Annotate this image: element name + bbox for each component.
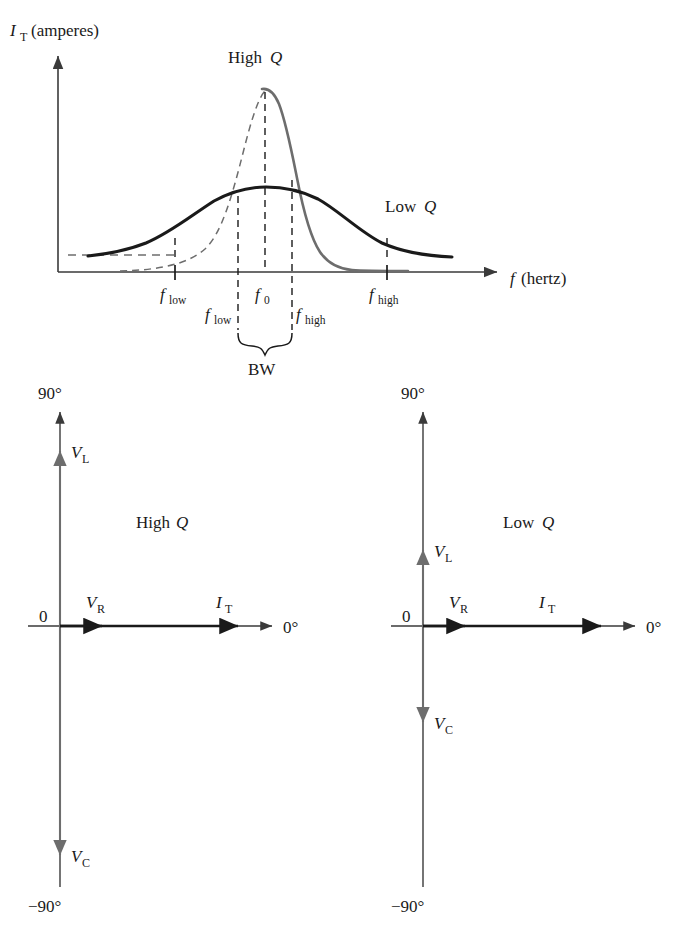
tick-label-f-zero-symbol: f [255, 285, 262, 304]
bandwidth-label: BW [248, 360, 276, 379]
low-q-phasor-caption-q: Q [542, 513, 554, 532]
high-q-vector-it-label: I T [215, 593, 233, 616]
high-q-annotation-text: High [228, 48, 263, 67]
high-q-phasor-caption-q: Q [176, 513, 188, 532]
low-q-axis-label-bottom: −90° [391, 897, 424, 916]
high-q-curve-annotation: High Q [228, 48, 282, 67]
low-q-annotation-text: Low [385, 197, 417, 216]
high-q-vector-vc-subscript: C [82, 856, 90, 870]
low-q-axis-label-right: 0° [646, 618, 661, 637]
low-q-phasor-caption-text: Low [503, 513, 535, 532]
low-q-vector-vr-subscript: R [460, 602, 468, 616]
tick-label-f-high-inner-subscript: high [305, 314, 326, 327]
y-axis-label-unit: (amperes) [31, 21, 99, 40]
high-q-vector-vr-label: V R [86, 593, 105, 616]
tick-label-f-low-outer: f low [160, 285, 187, 306]
high-q-vector-vc-label: V C [71, 847, 90, 870]
high-q-vector-vr-subscript: R [97, 602, 105, 616]
tick-label-f-zero: f 0 [255, 285, 270, 306]
high-q-axis-label-top: 90° [38, 384, 62, 403]
high-q-annotation-q: Q [270, 48, 282, 67]
phasor-diagram-low-q: 90° −90° 0° 0 Low Q V L V C V R I [391, 384, 661, 916]
high-q-vector-it-subscript: T [225, 602, 233, 616]
figure-svg: I T (amperes) f (hertz) High Q Low Q [0, 0, 676, 932]
y-axis-label-symbol: I [9, 21, 17, 40]
tick-label-f-high-outer: f high [369, 285, 399, 307]
tick-label-f-low-inner-symbol: f [205, 305, 212, 324]
low-q-vector-vc-subscript: C [445, 723, 453, 737]
resonance-chart: I T (amperes) f (hertz) High Q Low Q [9, 21, 566, 379]
low-q-axis-label-top: 90° [401, 384, 425, 403]
x-axis-label-unit: (hertz) [521, 269, 566, 288]
tick-label-f-high-inner-symbol: f [296, 305, 303, 324]
high-q-phasor-caption-text: High [136, 513, 171, 532]
tick-label-f-low-inner-subscript: low [214, 314, 232, 326]
bandwidth-brace [238, 333, 292, 355]
low-q-annotation-q: Q [424, 197, 436, 216]
low-q-vector-vl-subscript: L [445, 551, 452, 565]
tick-label-f-high-outer-subscript: high [378, 294, 399, 307]
tick-label-f-high-inner: f high [296, 305, 326, 327]
low-q-curve-annotation: Low Q [385, 197, 436, 216]
high-q-phasor-caption: High Q [136, 513, 188, 532]
low-q-vector-vc-label: V C [434, 714, 453, 737]
low-q-vector-vl-label: V L [434, 542, 452, 565]
x-axis-label: f (hertz) [510, 269, 566, 288]
y-axis-label: I T (amperes) [9, 21, 99, 44]
y-axis-label-subscript: T [20, 30, 28, 44]
figure-root: I T (amperes) f (hertz) High Q Low Q [0, 0, 676, 932]
high-q-vector-vl-subscript: L [82, 452, 89, 466]
high-q-origin-label: 0 [39, 607, 48, 626]
low-q-vector-it-subscript: T [548, 602, 556, 616]
high-q-vector-it-symbol: I [215, 593, 223, 612]
tick-label-f-low-inner: f low [205, 305, 232, 326]
low-q-origin-label: 0 [402, 607, 411, 626]
tick-label-f-zero-subscript: 0 [264, 294, 270, 306]
phasor-diagram-high-q: 90° −90° 0° 0 High Q V L V C V R I [28, 384, 298, 916]
low-q-vector-it-label: I T [538, 593, 556, 616]
tick-label-f-low-outer-symbol: f [160, 285, 167, 304]
high-q-axis-label-right: 0° [283, 618, 298, 637]
high-q-axis-label-bottom: −90° [28, 897, 61, 916]
tick-label-f-low-outer-subscript: low [169, 294, 187, 306]
tick-label-f-high-outer-symbol: f [369, 285, 376, 304]
low-q-vector-vr-label: V R [449, 593, 468, 616]
low-q-vector-it-symbol: I [538, 593, 546, 612]
low-q-phasor-caption: Low Q [503, 513, 554, 532]
x-axis-label-symbol: f [510, 269, 517, 288]
high-q-vector-vl-label: V L [71, 443, 89, 466]
